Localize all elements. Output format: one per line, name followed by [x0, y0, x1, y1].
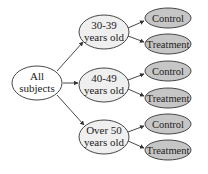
- edge-group-1-treatment: [128, 36, 144, 42]
- leaf-label: Treatment: [147, 39, 190, 50]
- group-label-line2: years old: [84, 31, 125, 43]
- edge-group-1-control: [128, 21, 144, 28]
- edge-group-3-control: [128, 126, 144, 132]
- leaf-label: Control: [152, 13, 184, 24]
- root-label-line2: subjects: [19, 82, 54, 94]
- leaf-node-treatment: Treatment: [145, 34, 191, 54]
- leaf-label: Treatment: [147, 145, 190, 156]
- edge-root-group-3: [57, 95, 84, 125]
- leaf-node-control: Control: [145, 114, 191, 134]
- leaf-node-control: Control: [145, 8, 191, 28]
- leaf-node-control: Control: [145, 61, 191, 81]
- group-label-line1: 30-39: [91, 19, 117, 31]
- edge-root-group-1: [57, 42, 83, 71]
- edge-group-3-treatment: [128, 141, 144, 148]
- leaf-label: Treatment: [147, 93, 190, 104]
- edge-group-2-treatment: [128, 89, 144, 96]
- edge-group-2-control: [128, 74, 144, 80]
- root-label-line1: All: [30, 70, 44, 82]
- group-label-line1: Over 50: [86, 124, 122, 136]
- group-label-line2: years old: [84, 84, 125, 96]
- group-label-line2: years old: [84, 136, 125, 148]
- leaf-label: Control: [152, 119, 184, 130]
- subject-tree-diagram: All subjects 30-39 years old 40-49 years…: [0, 0, 208, 174]
- group-node-40-49: 40-49 years old: [79, 68, 129, 102]
- group-node-30-39: 30-39 years old: [79, 15, 129, 49]
- leaf-label: Control: [152, 66, 184, 77]
- group-node-over-50: Over 50 years old: [79, 120, 129, 154]
- group-label-line1: 40-49: [91, 72, 117, 84]
- leaf-node-treatment: Treatment: [145, 88, 191, 108]
- root-node-all-subjects: All subjects: [12, 66, 62, 100]
- leaf-node-treatment: Treatment: [145, 140, 191, 160]
